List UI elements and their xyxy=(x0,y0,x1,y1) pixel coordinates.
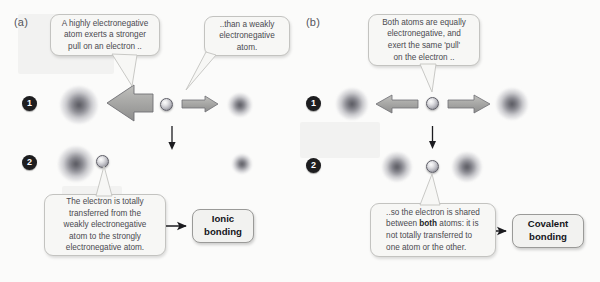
result-line: Covalent xyxy=(528,218,569,229)
panel-a-callout-strong-pull-leader xyxy=(112,54,137,86)
panel-b-electron-step2 xyxy=(426,160,439,173)
panel-a-letter: (a) xyxy=(14,16,28,28)
page-ghost-artifact xyxy=(300,122,380,158)
callout-line: Both atoms are equally xyxy=(382,18,466,27)
panel-a-strong-pull-arrow xyxy=(107,84,153,122)
panel-a-step-1-number: 1 xyxy=(27,99,32,108)
panel-a-step-1-disc: 1 xyxy=(22,96,37,111)
callout-line: transferred from the xyxy=(69,209,141,218)
callout-line: pull on an electron .. xyxy=(68,42,142,51)
panel-a-weakly-electronegative-atom-step2 xyxy=(232,154,252,174)
panel-b-result-covalent-bonding: Covalent bonding xyxy=(512,214,584,248)
panel-a-electron-step1 xyxy=(160,98,173,111)
callout-line: on the electron .. xyxy=(394,53,455,62)
panel-a-weak-pull-arrow xyxy=(182,96,218,112)
panel-a-callout-weak-pull: ..than a weakly electronegative atom. xyxy=(204,16,290,56)
panel-b-step-2-number: 2 xyxy=(311,161,316,170)
panel-b-letter: (b) xyxy=(306,16,320,28)
callout-line: exert the same 'pull' xyxy=(388,41,460,50)
panel-a-result-ionic-bonding: Ionic bonding xyxy=(192,209,254,243)
callout-emphasis: both xyxy=(419,219,437,228)
panel-b-step-2-disc: 2 xyxy=(306,158,321,173)
callout-line: electronegative atom. xyxy=(66,243,144,252)
panel-a-callout-transfer: The electron is totally transferred from… xyxy=(44,194,166,256)
panel-b-step-1-number: 1 xyxy=(311,99,316,108)
panel-b-atom-left-step1 xyxy=(336,88,368,120)
panel-b-step-1-disc: 1 xyxy=(306,96,321,111)
callout-line: atom. xyxy=(237,43,257,52)
callout-text: between xyxy=(386,219,419,228)
result-line: bonding xyxy=(204,226,242,237)
panel-a-callout-weak-pull-leader xyxy=(186,52,216,90)
result-line: bonding xyxy=(529,231,567,242)
panel-a-electron-step2 xyxy=(96,155,109,168)
panel-a-step-2-number: 2 xyxy=(27,158,32,167)
panel-b-callout-equal-pull: Both atoms are equally electronegative, … xyxy=(368,14,480,66)
callout-line: ..than a weakly xyxy=(220,20,275,29)
panel-a-strongly-electronegative-atom-step2 xyxy=(58,146,94,182)
callout-text: one atom or the other. xyxy=(386,243,466,252)
panel-b-step-down-arrow xyxy=(429,126,436,149)
panel-b-atom-right-step2 xyxy=(452,152,482,182)
callout-text: ..so the electron is shared xyxy=(386,208,480,217)
figure-canvas: (a) 1 2 A highly electronegative atom ex… xyxy=(0,0,600,282)
callout-text: atoms: it is xyxy=(437,219,478,228)
panel-b-equal-pull-arrow-right xyxy=(448,95,490,113)
result-line: Ionic xyxy=(212,213,234,224)
panel-b-equal-pull-arrow-left xyxy=(376,95,418,113)
panel-b-electron-step1 xyxy=(426,97,439,110)
panel-b-atom-left-step2 xyxy=(382,152,412,182)
panel-a-callout-strong-pull: A highly electronegative atom exerts a s… xyxy=(50,14,160,56)
panel-a-weakly-electronegative-atom-step1 xyxy=(228,93,252,117)
panel-b-callout-shared: ..so the electron is sharedbetween both … xyxy=(370,203,496,257)
panel-a-step-2-disc: 2 xyxy=(22,155,37,170)
callout-line: atom to the strongly xyxy=(69,232,141,241)
callout-line: The electron is totally xyxy=(66,197,143,206)
panel-a-strongly-electronegative-atom-step1 xyxy=(60,86,98,124)
callout-line: atom exerts a stronger xyxy=(64,30,146,39)
callout-text: not totally transferred to xyxy=(386,231,472,240)
callout-line: electronegative xyxy=(219,31,275,40)
panel-a-step-down-arrow xyxy=(168,126,175,150)
panel-b-callout-shared-leader xyxy=(420,174,440,205)
panel-b-callout-equal-pull-leader xyxy=(420,64,436,92)
callout-line: A highly electronegative xyxy=(62,19,148,28)
panel-b-atom-right-step1 xyxy=(496,88,528,120)
callout-rich-text: ..so the electron is sharedbetween both … xyxy=(386,207,480,254)
callout-line: weakly electronegative xyxy=(64,220,147,229)
callout-line: electronegative, and xyxy=(387,29,461,38)
